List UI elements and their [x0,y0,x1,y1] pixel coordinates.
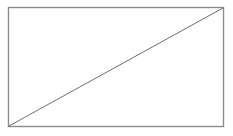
geometric-figure [0,0,233,136]
figure-canvas: Rectangle with diagonal [0,0,233,136]
